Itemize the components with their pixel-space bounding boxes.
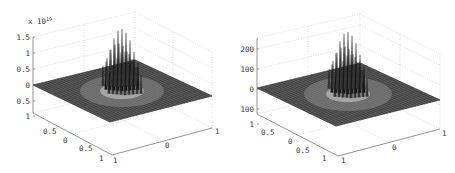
y-tick-label: 0.5 <box>79 144 93 153</box>
x-tick-label: 0 <box>392 143 397 152</box>
z-tick-label: 100 <box>240 105 254 114</box>
z-tick-label: 100 <box>240 65 254 74</box>
z-tick-label: 1.5 <box>16 33 30 42</box>
x-tick-label: 1 <box>215 127 220 136</box>
figure: 1.510.500.510.500.51101 x 1019 <box>0 0 455 173</box>
x-tick-label: 1 <box>442 129 447 138</box>
y-tick-label: 0.5 <box>296 146 310 155</box>
x-tick-label: 1 <box>341 156 346 165</box>
z-tick-label: 1 <box>249 120 254 129</box>
z-tick-label: 0 <box>249 85 254 94</box>
surface-plots: 1.510.500.510.500.51101 x 1019 <box>0 0 455 173</box>
z-tick-label: 0.5 <box>16 97 30 106</box>
y-tick-label: 0 <box>63 136 68 145</box>
z-tick-label: 1 <box>25 112 30 121</box>
z-exponent-label: x 1019 <box>28 16 52 26</box>
surface-plot-right: 200100010010.500.51101 <box>240 14 446 165</box>
y-tick-label: 0 <box>288 137 293 146</box>
y-tick-label: 0.5 <box>43 127 57 136</box>
z-tick-label: 0.5 <box>16 65 30 74</box>
y-tick-label: 1 <box>322 154 327 163</box>
x-tick-label: 0 <box>165 141 170 150</box>
z-tick-label: 1 <box>25 49 30 58</box>
z-tick-label: 0 <box>25 81 30 90</box>
y-tick-label: 1 <box>99 154 104 163</box>
x-tick-label: 1 <box>113 156 118 165</box>
z-tick-label: 200 <box>240 45 254 54</box>
y-tick-label: 0.5 <box>261 128 275 137</box>
surface-plot-left: 1.510.500.510.500.51101 x 1019 <box>16 12 219 165</box>
